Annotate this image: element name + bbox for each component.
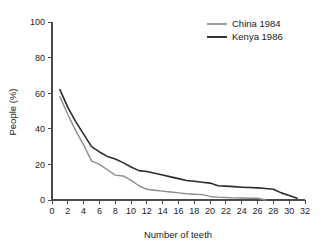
series-line-kenya-1986 (60, 90, 297, 199)
x-tick-label: 2 (65, 206, 70, 216)
y-tick-label: 0 (40, 195, 45, 205)
y-tick-label: 80 (35, 53, 45, 63)
x-tick-label: 30 (284, 206, 294, 216)
line-chart: 020406080100 024681012141618202224262830… (0, 0, 322, 244)
x-tick-label: 28 (268, 206, 278, 216)
data-series-group (60, 90, 297, 200)
x-tick-label: 32 (300, 206, 310, 216)
legend-label-kenya-1986: Kenya 1986 (232, 31, 283, 42)
x-tick-label: 12 (142, 206, 152, 216)
x-axis: 02468101214161820222426283032 (49, 200, 310, 216)
x-tick-label: 22 (221, 206, 231, 216)
y-tick-label: 100 (30, 17, 45, 27)
chart-legend: China 1984Kenya 1986 (207, 18, 283, 42)
x-tick-label: 20 (205, 206, 215, 216)
x-tick-label: 0 (49, 206, 54, 216)
x-tick-label: 16 (173, 206, 183, 216)
y-axis: 020406080100 (30, 17, 52, 205)
y-tick-label: 40 (35, 124, 45, 134)
x-axis-title: Number of teeth (144, 229, 212, 240)
x-tick-label: 6 (97, 206, 102, 216)
x-tick-label: 14 (158, 206, 168, 216)
chart-figure: 020406080100 024681012141618202224262830… (0, 0, 322, 244)
legend-label-china-1984: China 1984 (232, 18, 281, 29)
series-line-china-1984 (60, 97, 266, 200)
x-tick-label: 8 (113, 206, 118, 216)
x-tick-label: 18 (189, 206, 199, 216)
x-tick-label: 24 (237, 206, 247, 216)
x-tick-label: 26 (253, 206, 263, 216)
x-tick-label: 4 (81, 206, 86, 216)
y-tick-label: 60 (35, 89, 45, 99)
y-axis-title: People (%) (7, 89, 18, 136)
y-tick-label: 20 (35, 160, 45, 170)
x-tick-label: 10 (126, 206, 136, 216)
